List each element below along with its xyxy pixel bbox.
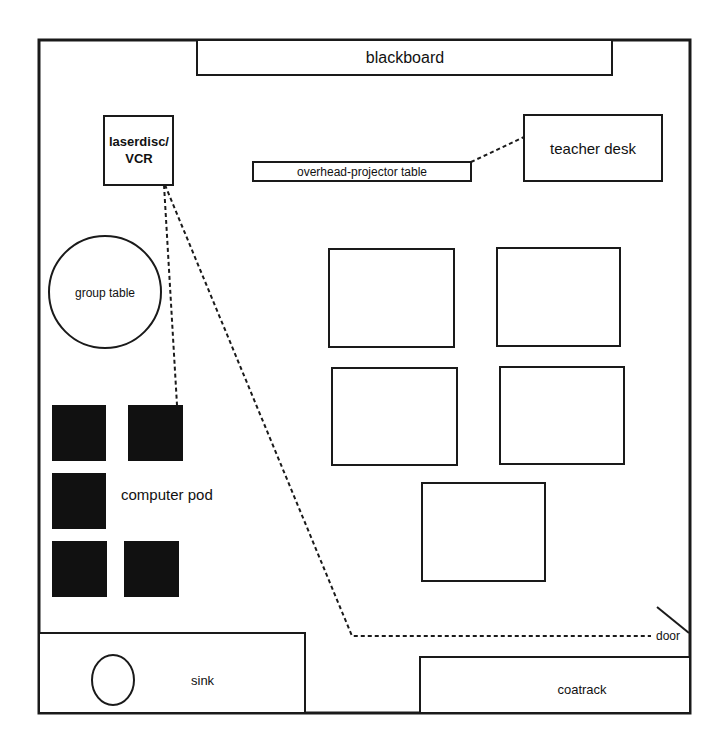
overhead-projector-table-label: overhead-projector table (297, 165, 427, 179)
group-table-label: group table (75, 286, 135, 300)
overhead-projector-table: overhead-projector table (253, 162, 471, 181)
computer (124, 541, 179, 597)
laserdisc-label-line2: VCR (125, 151, 153, 166)
group-table: group table (49, 236, 161, 348)
door-label: door (656, 629, 680, 643)
computer (52, 541, 107, 597)
blackboard: blackboard (197, 40, 612, 75)
student-desks (329, 248, 624, 581)
classroom-floor-plan: blackboard laserdisc/ VCR overhead-proje… (0, 0, 727, 749)
connection-overhead-to-teacher-desk (471, 137, 524, 162)
student-desk (332, 368, 457, 465)
computer (52, 473, 106, 529)
laserdisc-vcr: laserdisc/ VCR (104, 116, 173, 185)
teacher-desk-label: teacher desk (550, 140, 636, 157)
computer (128, 405, 183, 461)
blackboard-label: blackboard (366, 49, 444, 66)
student-desk (497, 248, 620, 346)
student-desk (422, 483, 545, 581)
teacher-desk: teacher desk (524, 115, 662, 181)
coatrack: coatrack (420, 657, 690, 713)
sink-basin (92, 655, 134, 705)
student-desk (500, 367, 624, 464)
computer-pod: computer pod (52, 405, 213, 597)
laserdisc-label-line1: laserdisc/ (109, 134, 169, 149)
connection-laserdisc-to-computer-pod (164, 185, 177, 405)
sink-label: sink (191, 673, 215, 688)
student-desk (329, 249, 454, 347)
door: door (656, 607, 689, 643)
sink-counter: sink (39, 633, 305, 713)
computer-pod-label: computer pod (121, 486, 213, 503)
coatrack-label: coatrack (557, 682, 607, 697)
computer (52, 405, 106, 461)
